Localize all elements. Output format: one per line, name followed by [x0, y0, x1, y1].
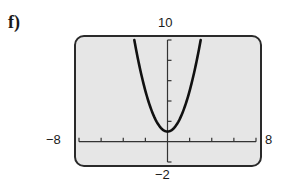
graphing-screen — [0, 0, 291, 191]
